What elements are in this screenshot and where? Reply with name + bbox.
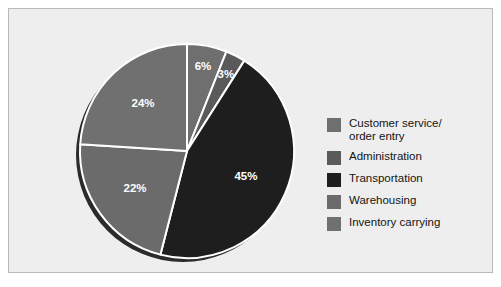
- chart-legend: Customer service/ order entryAdministrat…: [327, 117, 495, 238]
- pie-chart: 6%3%45%22%24%: [71, 36, 303, 268]
- legend-item: Administration: [327, 150, 495, 165]
- legend-swatch-icon: [327, 151, 341, 165]
- pie-slice-value-label: 6%: [195, 60, 212, 72]
- legend-item: Inventory carrying: [327, 216, 495, 231]
- pie-slice-value-label: 3%: [218, 68, 235, 80]
- pie-svg: 6%3%45%22%24%: [71, 36, 303, 268]
- legend-swatch-icon: [327, 217, 341, 231]
- pie-slice-value-label: 24%: [132, 97, 155, 109]
- legend-item-label: Inventory carrying: [349, 216, 440, 229]
- legend-swatch-icon: [327, 195, 341, 209]
- pie-slice-value-label: 22%: [124, 182, 147, 194]
- pie-slices: [80, 44, 294, 258]
- legend-item-label: Administration: [349, 150, 422, 163]
- legend-item: Customer service/ order entry: [327, 117, 495, 143]
- legend-swatch-icon: [327, 118, 341, 132]
- legend-item-label: Customer service/ order entry: [349, 117, 442, 143]
- legend-item: Transportation: [327, 172, 495, 187]
- legend-item: Warehousing: [327, 194, 495, 209]
- pie-slice-value-label: 45%: [234, 170, 257, 182]
- legend-item-label: Transportation: [349, 172, 423, 185]
- chart-panel: 6%3%45%22%24% Customer service/ order en…: [8, 8, 493, 273]
- legend-swatch-icon: [327, 173, 341, 187]
- pie-chart-figure: 6%3%45%22%24% Customer service/ order en…: [0, 0, 501, 287]
- legend-item-label: Warehousing: [349, 194, 416, 207]
